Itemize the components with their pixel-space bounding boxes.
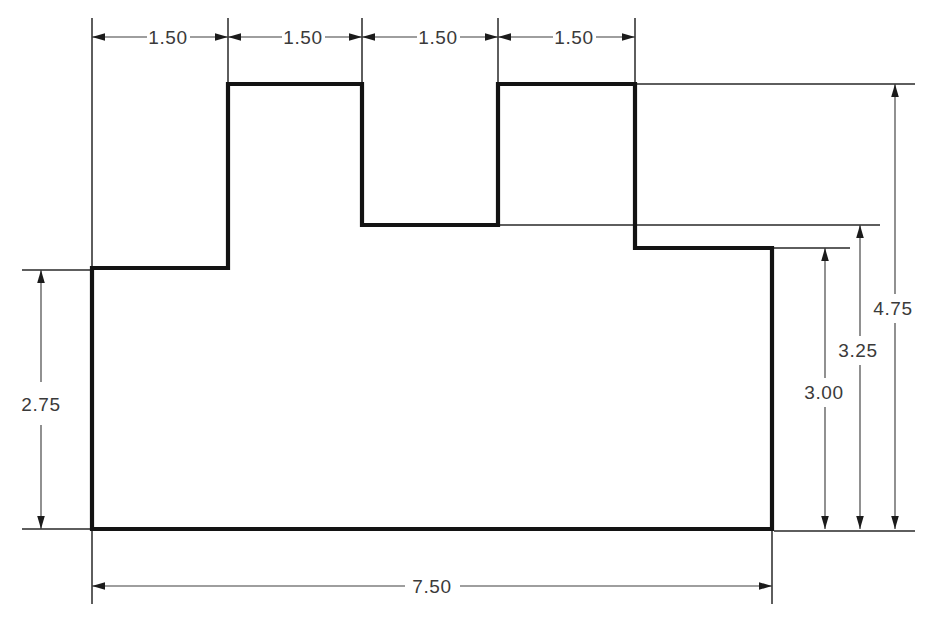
dimension-top-1[interactable]: 1.50 bbox=[92, 27, 228, 48]
dimension-right-3-00[interactable]: 3.00 bbox=[804, 248, 843, 529]
dimension-right-3-25[interactable]: 3.25 bbox=[838, 225, 877, 529]
right-extension-lines bbox=[500, 84, 915, 531]
engineering-drawing-canvas: 1.50 1.50 1.50 bbox=[0, 0, 935, 624]
dimension-label-top-4: 1.50 bbox=[554, 27, 593, 48]
arrow-head-left bbox=[362, 33, 375, 41]
arrow-head-top bbox=[821, 248, 829, 261]
arrow-head-right bbox=[485, 33, 498, 41]
arrow-head-left bbox=[92, 33, 105, 41]
arrow-head-top bbox=[37, 270, 45, 283]
dimension-label-bottom: 7.50 bbox=[412, 576, 451, 597]
dimension-label-top-2: 1.50 bbox=[283, 27, 322, 48]
arrow-head-bottom bbox=[821, 516, 829, 529]
dimension-left-2-75[interactable]: 2.75 bbox=[21, 270, 60, 529]
arrow-head-left bbox=[498, 33, 511, 41]
dimension-top-2[interactable]: 1.50 bbox=[228, 27, 362, 48]
arrow-head-bottom bbox=[891, 516, 899, 529]
drawing-svg: 1.50 1.50 1.50 bbox=[0, 0, 935, 624]
arrow-head-top bbox=[856, 225, 864, 238]
arrow-head-left bbox=[228, 33, 241, 41]
top-dimension-chain: 1.50 1.50 1.50 bbox=[92, 27, 635, 48]
arrow-head-bottom bbox=[37, 516, 45, 529]
dimension-right-4-75[interactable]: 4.75 bbox=[873, 84, 912, 529]
arrow-head-right bbox=[349, 33, 362, 41]
stepped-block-outline bbox=[92, 84, 772, 529]
dimension-label-right-3-25: 3.25 bbox=[838, 340, 877, 361]
dimension-label-left: 2.75 bbox=[21, 394, 60, 415]
arrow-head-left bbox=[92, 582, 105, 590]
dimension-top-3[interactable]: 1.50 bbox=[362, 27, 498, 48]
arrow-head-top bbox=[891, 84, 899, 97]
arrow-head-right bbox=[759, 582, 772, 590]
dimension-label-top-1: 1.50 bbox=[148, 27, 187, 48]
arrow-head-right bbox=[622, 33, 635, 41]
dimension-label-right-4-75: 4.75 bbox=[873, 298, 912, 319]
dimension-bottom-7-50[interactable]: 7.50 bbox=[92, 576, 772, 597]
dimension-top-4[interactable]: 1.50 bbox=[498, 27, 635, 48]
arrow-head-right bbox=[215, 33, 228, 41]
arrow-head-bottom bbox=[856, 516, 864, 529]
dimension-label-right-3-00: 3.00 bbox=[804, 382, 843, 403]
dimension-label-top-3: 1.50 bbox=[418, 27, 457, 48]
